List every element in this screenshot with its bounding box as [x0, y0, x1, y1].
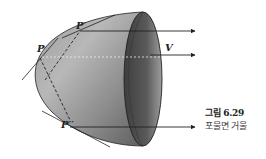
caption-number: 그림 6.29: [205, 107, 247, 120]
mirror-opening: [124, 12, 162, 146]
paraboloid-mirror-diagram: P P′ P′′ V: [0, 0, 266, 159]
label-p-double-prime: P′′: [60, 119, 74, 130]
label-p-prime: P′: [75, 20, 87, 31]
label-p: P: [36, 43, 45, 54]
caption-title: 포물면 거울: [205, 120, 247, 133]
figure-caption: 그림 6.29 포물면 거울: [205, 107, 247, 133]
label-v: V: [165, 42, 174, 53]
